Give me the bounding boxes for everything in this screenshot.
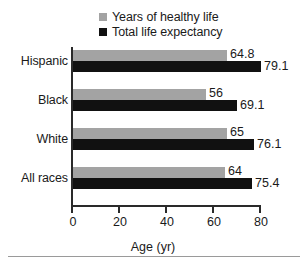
bar-hispanic-life-expectancy (73, 61, 261, 72)
bar-value-white-life-expectancy: 76.1 (257, 139, 281, 150)
category-label-all-races: All races (0, 172, 68, 185)
x-tick-label-60: 60 (199, 215, 229, 229)
bar-all-races-healthy-life (73, 167, 225, 178)
bar-white-life-expectancy (73, 139, 254, 150)
bar-all-races-life-expectancy (73, 178, 252, 189)
bottom-divider (8, 256, 300, 257)
bar-value-black-life-expectancy: 69.1 (240, 100, 264, 111)
category-label-black: Black (0, 94, 68, 107)
chart-legend: Years of healthy life Total life expecta… (99, 10, 279, 40)
x-tick-40 (165, 207, 167, 213)
x-tick-label-20: 20 (105, 215, 135, 229)
category-axis-labels: Hispanic Black White All races (0, 47, 68, 205)
legend-swatch-icon-life-expectancy (99, 28, 107, 36)
bar-white-healthy-life (73, 128, 227, 139)
legend-item-healthy-life: Years of healthy life (99, 10, 279, 24)
plot-area: 64.8 79.1 56 69.1 65 76.1 64 75.4 (71, 47, 261, 205)
x-tick-label-0: 0 (58, 215, 88, 229)
bar-value-white-healthy-life: 65 (230, 127, 244, 138)
bar-value-hispanic-healthy-life: 64.8 (230, 49, 254, 60)
bar-black-healthy-life (73, 89, 206, 100)
category-label-white: White (0, 133, 68, 146)
x-tick-20 (118, 207, 120, 213)
bar-value-hispanic-life-expectancy: 79.1 (264, 61, 288, 72)
bar-black-life-expectancy (73, 100, 237, 111)
legend-swatch-icon-healthy-life (99, 13, 107, 21)
x-tick-0 (71, 207, 73, 213)
x-tick-80 (259, 207, 261, 213)
x-tick-label-80: 80 (246, 215, 276, 229)
bar-chart-figure: Years of healthy life Total life expecta… (0, 0, 306, 266)
legend-label-life-expectancy: Total life expectancy (112, 26, 222, 39)
x-tick-60 (212, 207, 214, 213)
bar-hispanic-healthy-life (73, 50, 227, 61)
x-axis-title: Age (yr) (0, 240, 306, 254)
category-label-hispanic: Hispanic (0, 55, 68, 68)
legend-label-healthy-life: Years of healthy life (112, 11, 219, 24)
bar-value-all-races-healthy-life: 64 (228, 166, 242, 177)
legend-item-life-expectancy: Total life expectancy (99, 25, 279, 39)
bar-value-black-healthy-life: 56 (209, 88, 223, 99)
x-tick-label-40: 40 (152, 215, 182, 229)
bar-value-all-races-life-expectancy: 75.4 (255, 178, 279, 189)
